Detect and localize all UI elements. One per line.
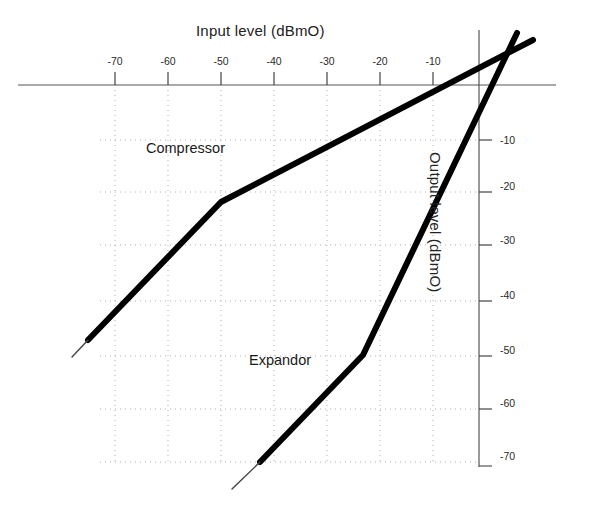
- compressor-curve: [72, 40, 533, 357]
- y-tick-marks: [479, 140, 492, 409]
- y-tick-label--50: -50: [500, 344, 515, 356]
- x-tick-marks: [115, 72, 433, 85]
- x-tick-label--40: -40: [266, 55, 281, 67]
- y-tick-label--60: -60: [500, 397, 515, 409]
- y-tick-label--70: -70: [500, 450, 515, 462]
- y-tick-label--40: -40: [500, 289, 515, 301]
- expandor-curve: [232, 33, 517, 489]
- y-tick-label--20: -20: [500, 180, 515, 192]
- plot-canvas: [0, 0, 590, 521]
- compressor-curve-label: Compressor: [146, 140, 225, 156]
- x-axis-title: Input level (dBmO): [196, 22, 325, 39]
- x-tick-label--10: -10: [425, 55, 440, 67]
- companding-characteristic-figure: Input level (dBmO) Output level (dBmO) -…: [0, 0, 590, 521]
- axes: [18, 30, 556, 467]
- expandor-extension-tail: [232, 462, 260, 489]
- x-tick-label--20: -20: [372, 55, 387, 67]
- compressor-extension-tail: [72, 340, 88, 357]
- y-axis-title: Output level (dBmO): [427, 152, 444, 293]
- x-tick-label--60: -60: [160, 55, 175, 67]
- expandor-curve-label: Expandor: [249, 352, 311, 368]
- y-tick-label--10: -10: [500, 134, 515, 146]
- x-tick-label--70: -70: [107, 55, 122, 67]
- x-tick-label--30: -30: [319, 55, 334, 67]
- x-tick-label--50: -50: [213, 55, 228, 67]
- y-tick-label--30: -30: [500, 234, 515, 246]
